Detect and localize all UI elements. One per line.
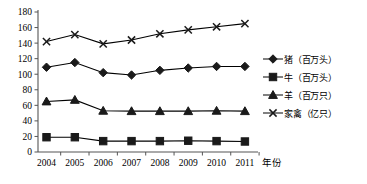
legend-item[interactable]: 牛（百万头） (262, 68, 367, 86)
x-axis: 20042005200620072008200920102011 (37, 152, 259, 168)
legend-item-label: 牛（百万头） (284, 71, 337, 84)
y-tick-label: 20 (23, 132, 33, 142)
data-series (43, 20, 249, 47)
data-point-diamond (269, 55, 277, 63)
legend-item-label: 羊（百万只） (284, 89, 337, 102)
data-point-square (213, 137, 220, 144)
data-point-diamond (71, 58, 79, 66)
y-tick-label: 60 (23, 101, 33, 111)
x-tick-label: 2008 (150, 158, 169, 168)
x-tick-label: 2006 (94, 158, 113, 168)
data-point-square (128, 137, 135, 144)
legend-item[interactable]: 猪（百万头） (262, 50, 367, 68)
data-point-diamond (241, 62, 249, 70)
cross-marker (262, 106, 284, 120)
x-tick-label: 2009 (179, 158, 198, 168)
y-tick-label: 180 (18, 7, 33, 17)
data-point-square (269, 73, 276, 80)
diamond-marker (262, 52, 284, 66)
x-tick-label: 2007 (122, 158, 141, 168)
data-series (42, 58, 249, 79)
data-point-square (71, 134, 78, 141)
triangle-marker (262, 88, 284, 102)
data-series-group (42, 20, 249, 145)
data-point-diamond (99, 68, 107, 76)
y-tick-label: 140 (18, 39, 33, 49)
line-chart: 020406080100120140160180 200420052006200… (0, 0, 367, 184)
square-marker (262, 70, 284, 84)
y-tick-label: 0 (27, 147, 32, 157)
legend-item[interactable]: 家禽（亿只） (262, 104, 367, 122)
x-tick-label: 2005 (65, 158, 84, 168)
data-series (42, 95, 249, 114)
data-point-diamond (156, 66, 164, 74)
data-point-diamond (42, 63, 50, 71)
chart-legend: 猪（百万头）牛（百万头）羊（百万只）家禽（亿只） (262, 50, 367, 122)
data-point-diamond (127, 71, 135, 79)
legend-item[interactable]: 羊（百万只） (262, 86, 367, 104)
y-tick-label: 80 (23, 85, 33, 95)
data-series (43, 134, 249, 146)
x-tick-label: 2010 (207, 158, 226, 168)
x-tick-label: 2004 (37, 158, 56, 168)
y-tick-label: 160 (18, 23, 33, 33)
data-point-square (156, 137, 163, 144)
y-axis: 020406080100120140160180 (18, 7, 38, 157)
x-axis-title: 年份 (262, 157, 282, 168)
data-point-square (241, 138, 248, 145)
data-point-square (99, 137, 106, 144)
y-tick-label: 100 (18, 70, 33, 80)
y-tick-label: 120 (18, 54, 33, 64)
x-tick-label: 2011 (236, 158, 255, 168)
legend-item-label: 猪（百万头） (284, 53, 337, 66)
data-point-square (43, 134, 50, 141)
legend-item-label: 家禽（亿只） (284, 107, 337, 120)
data-point-square (185, 137, 192, 144)
data-point-diamond (184, 64, 192, 72)
data-point-diamond (212, 62, 220, 70)
data-point-triangle (70, 95, 79, 103)
y-tick-label: 40 (23, 116, 33, 126)
